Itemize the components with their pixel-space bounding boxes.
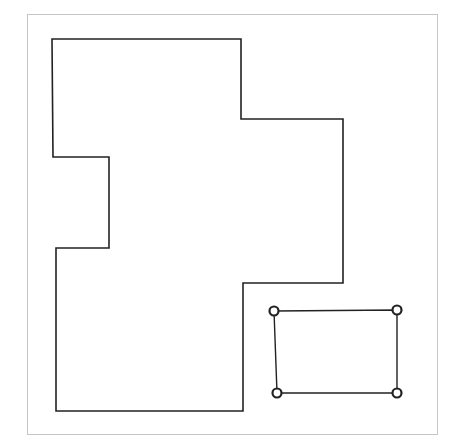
resize-handle-top-left-icon[interactable] bbox=[270, 307, 279, 316]
floor-plan-polygon[interactable] bbox=[52, 39, 343, 411]
resize-handle-top-right-icon[interactable] bbox=[393, 306, 402, 315]
resize-handle-bottom-left-icon[interactable] bbox=[273, 389, 282, 398]
resize-handles[interactable] bbox=[270, 306, 402, 398]
drawing-canvas[interactable] bbox=[0, 0, 450, 436]
resize-handle-bottom-right-icon[interactable] bbox=[393, 389, 402, 398]
selected-rectangle-group[interactable] bbox=[270, 306, 402, 398]
selected-rectangle[interactable] bbox=[274, 310, 397, 393]
page-frame-border bbox=[28, 15, 438, 435]
